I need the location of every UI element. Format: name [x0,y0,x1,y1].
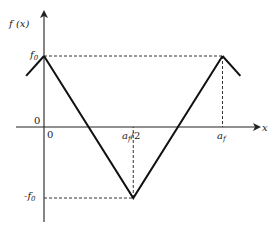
x-tick-af: af [217,130,227,143]
y-tick-minus-f0: -f0 [24,190,36,203]
curve-extension-1 [223,56,241,76]
origin-label-x: 0 [47,129,53,140]
y-axis-label: f (x) [8,18,29,29]
triangular-wave-diagram: f (x) x 0 0 f0 -f0 af/2 af [0,0,271,236]
origin-label-y: 0 [34,115,40,126]
x-axis-label: x [262,122,268,133]
x-tick-half-af: af/2 [122,130,140,143]
y-tick-f0: f0 [29,49,39,62]
